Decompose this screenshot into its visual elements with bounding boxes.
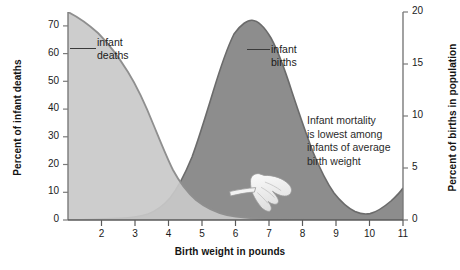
deaths-leader-line	[70, 48, 96, 49]
x-tick-10: 10	[359, 228, 381, 239]
series-label-infant-births: infant births	[271, 43, 297, 68]
x-axis-title: Birth weight in pounds	[0, 246, 460, 257]
x-tick-7: 7	[258, 228, 280, 239]
mortality-annotation: Infant mortality is lowest among infants…	[307, 114, 407, 168]
births-leader-line	[247, 49, 270, 50]
y-right-tick-20: 20	[412, 5, 438, 16]
y-axis-left-title: Percent of infant deaths	[12, 33, 23, 203]
y-left-tick-40: 40	[33, 102, 59, 113]
y-right-tick-15: 15	[412, 57, 438, 68]
x-tick-5: 5	[191, 228, 213, 239]
x-tick-11: 11	[392, 228, 414, 239]
x-tick-3: 3	[124, 228, 146, 239]
y-left-tick-20: 20	[33, 158, 59, 169]
y-right-tick-0: 0	[412, 213, 438, 224]
x-tick-6: 6	[225, 228, 247, 239]
y-left-tick-70: 70	[33, 19, 59, 30]
series-label-infant-deaths: infant deaths	[97, 36, 129, 61]
y-axis-left-ticks	[63, 26, 68, 220]
y-left-tick-50: 50	[33, 75, 59, 86]
y-right-tick-5: 5	[412, 161, 438, 172]
x-axis-ticks	[102, 220, 404, 226]
y-left-tick-30: 30	[33, 130, 59, 141]
x-tick-9: 9	[325, 228, 347, 239]
x-tick-2: 2	[91, 228, 113, 239]
x-tick-8: 8	[292, 228, 314, 239]
y-left-tick-10: 10	[33, 185, 59, 196]
y-axis-right-title: Percent of births in population	[447, 28, 458, 208]
y-left-tick-0: 0	[33, 213, 59, 224]
y-right-tick-10: 10	[412, 109, 438, 120]
y-left-tick-60: 60	[33, 47, 59, 58]
x-tick-4: 4	[158, 228, 180, 239]
chart-figure: 0 10 20 30 40 50 60 70 0 5 10 15 20 2 3 …	[0, 0, 460, 270]
